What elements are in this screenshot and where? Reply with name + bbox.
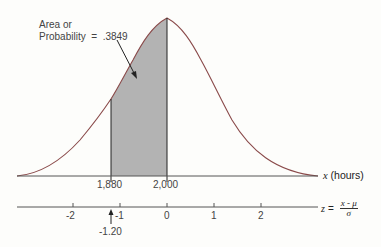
z-tick-label: 1 (211, 210, 217, 221)
z-tick-label: -1 (115, 210, 124, 221)
x-tick-label-lower: 1,880 (97, 179, 122, 190)
z-tick-label: -2 (66, 210, 75, 221)
z-marker-label: -1.20 (99, 226, 122, 237)
x-axis-label: x (hours) (323, 169, 364, 181)
x-tick-label-mean: 2,000 (153, 179, 178, 190)
z-axis-label: z = x - μ σ (321, 199, 358, 218)
x-unit: (hours) (331, 169, 364, 181)
marker-arrow-head (109, 209, 114, 215)
probability-annotation: Area or Probability = .3849 (39, 19, 128, 43)
z-formula-fraction: x - μ σ (340, 199, 358, 218)
x-var: x (323, 170, 328, 181)
z-tick-label: 2 (258, 210, 264, 221)
annotation-arrow-shaft (117, 40, 134, 73)
z-var: z (321, 203, 325, 214)
z-denominator: σ (347, 209, 351, 218)
normal-distribution-figure: Area or Probability = .3849 1,880 2,000 … (0, 0, 381, 247)
z-tick-label: 0 (164, 210, 170, 221)
annotation-line-2: Probability = .3849 (39, 31, 128, 43)
equals-sign: = (328, 203, 334, 214)
annotation-line-1: Area or (39, 19, 128, 31)
